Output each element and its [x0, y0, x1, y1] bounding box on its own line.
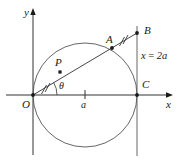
- angle-label-theta: θ: [59, 81, 64, 91]
- point-label-A: A: [106, 34, 113, 45]
- y-axis-label: y: [24, 7, 29, 18]
- tick-marks-segment-OP: [42, 83, 51, 94]
- point-P-marker: [58, 70, 61, 73]
- x-tick-label-a: a: [81, 100, 86, 110]
- point-B-marker: [135, 31, 139, 35]
- x-axis: [6, 92, 173, 97]
- vertical-line-label: x = 2a: [141, 51, 167, 62]
- point-A-marker: [110, 46, 114, 50]
- diagram-canvas: [0, 0, 182, 160]
- vertical-line-label-x: x: [141, 50, 146, 61]
- point-label-B: B: [144, 25, 151, 36]
- origin-label-O: O: [22, 99, 30, 110]
- point-label-C: C: [142, 79, 149, 90]
- vertical-line-label-value: 2a: [157, 50, 168, 61]
- x-axis-label: x: [166, 99, 171, 110]
- point-O-marker: [31, 93, 35, 97]
- angle-arc-theta: [54, 82, 57, 95]
- geometry-figure: y x O a P A B C θ x = 2a: [0, 0, 182, 160]
- point-C-marker: [135, 93, 139, 97]
- point-label-P: P: [55, 57, 62, 68]
- vertical-line-label-eq: =: [148, 50, 154, 61]
